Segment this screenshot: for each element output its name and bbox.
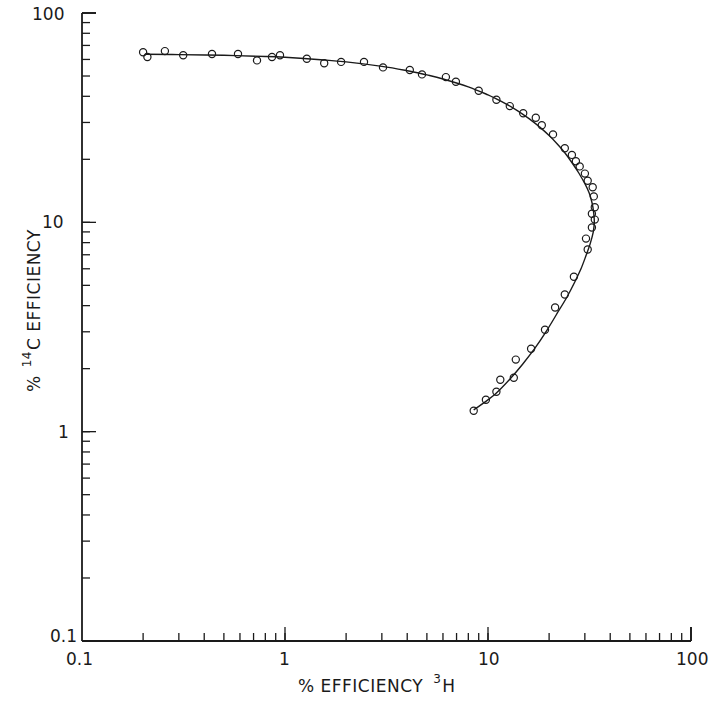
data-point-open-circle <box>276 52 283 59</box>
data-point-open-circle <box>581 170 588 177</box>
data-point-open-circle <box>379 64 386 71</box>
data-point-open-circle <box>493 388 500 395</box>
data-point-open-circle <box>161 48 168 55</box>
x-tick-label-10: 10 <box>478 649 500 669</box>
data-point-open-circle <box>591 216 598 223</box>
data-point-open-circle <box>144 53 151 60</box>
y-tick-label-100: 100 <box>32 4 64 24</box>
data-point-open-circle <box>418 71 425 78</box>
data-point-open-circle <box>561 291 568 298</box>
data-point-open-circle <box>442 74 449 81</box>
data-point-open-circle <box>482 396 489 403</box>
data-point-open-circle <box>589 184 596 191</box>
data-point-open-circle <box>561 145 568 152</box>
data-point-open-circle <box>253 57 260 64</box>
data-point-open-circle <box>520 110 527 117</box>
data-point-open-circle <box>208 50 215 57</box>
data-point-open-circle <box>303 55 310 62</box>
x-tick-label-100: 100 <box>676 649 708 669</box>
data-point-open-circle <box>338 58 345 65</box>
axes <box>82 13 691 641</box>
data-point-open-circle <box>538 122 545 129</box>
data-point-open-circle <box>452 78 459 85</box>
data-point-open-circle <box>360 58 367 65</box>
y-axis-title: %14C EFFICIENCY <box>20 229 44 392</box>
x-axis-ticks <box>143 627 691 641</box>
data-point-open-circle <box>510 374 517 381</box>
data-point-open-circle <box>528 345 535 352</box>
y-axis-ticks <box>82 13 96 578</box>
plot-area <box>140 48 599 415</box>
y-tick-label-1: 1 <box>58 422 69 442</box>
data-point-open-circle <box>549 131 556 138</box>
data-point-open-circle <box>180 52 187 59</box>
data-point-open-circle <box>321 60 328 67</box>
y-tick-label-10: 10 <box>42 212 64 232</box>
data-point-open-circle <box>512 356 519 363</box>
data-point-open-circle <box>234 50 241 57</box>
y-tick-label-0.1: 0.1 <box>50 626 77 646</box>
data-point-open-circle <box>475 87 482 94</box>
data-point-open-circle <box>506 103 513 110</box>
x-tick-label-0.1: 0.1 <box>66 649 93 669</box>
data-point-open-circle <box>406 66 413 73</box>
data-point-open-circle <box>470 407 477 414</box>
x-tick-label-1: 1 <box>279 649 290 669</box>
data-point-open-circle <box>590 193 597 200</box>
data-point-open-circle <box>493 96 500 103</box>
data-point-open-circle <box>576 163 583 170</box>
fitted-curve <box>145 54 594 410</box>
data-point-open-circle <box>532 114 539 121</box>
data-point-open-circle <box>584 246 591 253</box>
data-point-open-circle <box>268 53 275 60</box>
data-point-open-circle <box>588 224 595 231</box>
data-point-open-circle <box>497 376 504 383</box>
data-point-open-circle <box>582 235 589 242</box>
x-axis-title: % EFFICIENCY3H <box>298 672 456 696</box>
log-log-scatter-chart: 100 10 1 0.1 0.1 1 10 100 % EFFICIENCY3H… <box>0 0 723 703</box>
data-point-open-circle <box>584 177 591 184</box>
data-point-open-circle <box>541 326 548 333</box>
data-point-open-circle <box>570 273 577 280</box>
data-point-open-circle <box>552 304 559 311</box>
